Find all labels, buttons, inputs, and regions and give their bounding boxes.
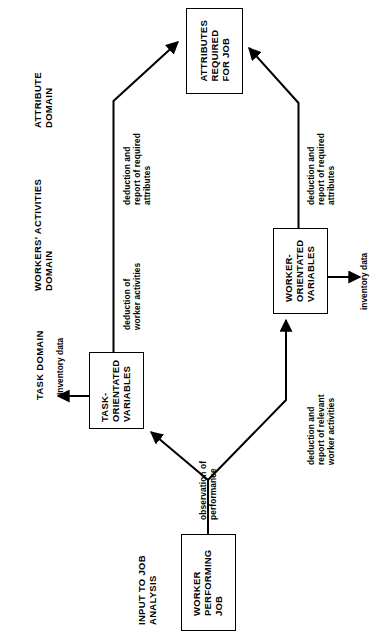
box-worker-performing-job-text: WORKERPERFORMINGJOB bbox=[192, 549, 226, 615]
label-deduction-worker-activities-line1: deduction of bbox=[122, 279, 132, 330]
label-deduction-required-attributes-left-line3: attributes bbox=[142, 166, 152, 205]
label-deduction-worker-activities-line2: worker activities bbox=[132, 263, 142, 330]
label-deduction-worker-activities: deduction of worker activities bbox=[122, 263, 142, 330]
label-inventory-data-worker: inventory data bbox=[359, 253, 369, 310]
label-inventory-data-task: Inventory data bbox=[55, 338, 65, 395]
domain-label-workers-activities-line2: DOMAIN bbox=[43, 251, 54, 291]
domain-label-attribute-line1: ATTRIBUTE bbox=[32, 72, 43, 128]
box-task-orientated-variables[interactable]: TASK-ORIENTATEDVARIABLES bbox=[89, 352, 144, 429]
domain-label-task: TASK DOMAIN bbox=[34, 330, 45, 400]
label-deduction-relevant-worker-activities-line1: deduction and bbox=[306, 406, 316, 465]
domain-label-input-line2: ANALYSIS bbox=[147, 575, 158, 625]
label-inventory-data-task-text: Inventory data bbox=[55, 338, 65, 395]
label-observation-of-performance-line2: performance bbox=[208, 468, 218, 520]
label-deduction-relevant-worker-activities-line2: report of relevant bbox=[316, 394, 326, 465]
label-deduction-required-attributes-left: deduction and report of required attribu… bbox=[122, 133, 152, 205]
domain-label-workers-activities-line1: WORKERS' ACTIVITIES bbox=[32, 179, 43, 291]
connector-performance-to-worker bbox=[208, 320, 286, 480]
box-worker-orientated-variables[interactable]: WORKER-ORIENTATEDVARIABLES bbox=[273, 228, 328, 314]
label-deduction-required-attributes-right-line2: report of required bbox=[316, 133, 326, 205]
domain-label-attribute: ATTRIBUTE DOMAIN bbox=[32, 72, 55, 128]
box-attributes-required-for-job-text: ATTRIBUTESREQUIREDFOR JOB bbox=[198, 20, 232, 81]
label-deduction-required-attributes-left-line2: report of required bbox=[132, 133, 142, 205]
label-deduction-relevant-worker-activities-line3: worker activities bbox=[326, 398, 336, 465]
diagram-canvas: ATTRIBUTESREQUIREDFOR JOB WORKER-ORIENTA… bbox=[0, 0, 379, 635]
label-deduction-required-attributes-right-line1: deduction and bbox=[306, 146, 316, 205]
label-deduction-required-attributes-right: deduction and report of required attribu… bbox=[306, 133, 336, 205]
domain-label-attribute-line2: DOMAIN bbox=[43, 88, 54, 128]
domain-label-task-text: TASK DOMAIN bbox=[34, 330, 45, 400]
box-worker-performing-job[interactable]: WORKERPERFORMINGJOB bbox=[181, 534, 236, 631]
domain-label-workers-activities: WORKERS' ACTIVITIES DOMAIN bbox=[32, 179, 55, 291]
label-observation-of-performance: observation of performance bbox=[198, 461, 218, 520]
box-task-orientated-variables-text: TASK-ORIENTATEDVARIABLES bbox=[100, 359, 134, 421]
label-deduction-relevant-worker-activities: deduction and report of relevant worker … bbox=[306, 394, 336, 465]
label-deduction-required-attributes-right-line3: attributes bbox=[326, 166, 336, 205]
box-attributes-required-for-job[interactable]: ATTRIBUTESREQUIREDFOR JOB bbox=[186, 8, 243, 94]
label-inventory-data-worker-text: inventory data bbox=[359, 253, 369, 310]
connector-worker-to-attributes bbox=[249, 48, 299, 228]
domain-label-input-to-job-analysis: INPUT TO JOB ANALYSIS bbox=[136, 555, 159, 625]
domain-label-input-line1: INPUT TO JOB bbox=[136, 555, 147, 625]
label-observation-of-performance-line1: observation of bbox=[198, 461, 208, 520]
label-deduction-required-attributes-left-line1: deduction and bbox=[122, 146, 132, 205]
box-worker-orientated-variables-text: WORKER-ORIENTATEDVARIABLES bbox=[284, 240, 318, 302]
